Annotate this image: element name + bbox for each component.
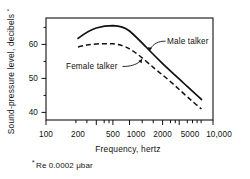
- y-tick-label-50: 50: [29, 74, 39, 83]
- x-axis-major-ticks: [46, 120, 213, 125]
- y-axis-title: Sound-pressure level, decibels: [6, 14, 16, 135]
- x-tick-label-100: 100: [39, 130, 53, 139]
- series-label-female-talker: Female talker: [66, 62, 118, 71]
- series-line-female-talker: [78, 44, 202, 109]
- y-axis-major-ticks: [42, 44, 47, 112]
- series-label-male-talker: Male talker: [167, 37, 209, 46]
- x-tick-label-5000: 5000: [181, 130, 200, 139]
- x-tick-label-200: 200: [71, 130, 85, 139]
- chart-plot: 40 50 60 100 2: [0, 0, 250, 179]
- y-tick-label-60: 60: [29, 40, 39, 49]
- figure-container: 40 50 60 100 2: [0, 0, 250, 179]
- x-tick-label-1000: 1000: [127, 130, 146, 139]
- y-tick-label-40: 40: [29, 108, 39, 117]
- footnote-marker: *: [32, 159, 35, 166]
- x-tick-label-500: 500: [106, 130, 120, 139]
- leader-line-female-talker: [123, 61, 141, 67]
- leader-line-male-talker: [150, 41, 166, 49]
- x-tick-label-2000: 2000: [153, 130, 172, 139]
- footnote-text: Re 0.0002 μbar: [36, 161, 93, 170]
- x-tick-label-10000: 10,000: [206, 130, 232, 139]
- x-axis-title: Frequency, hertz: [95, 144, 160, 154]
- y-axis-title-superscript: *: [6, 8, 12, 11]
